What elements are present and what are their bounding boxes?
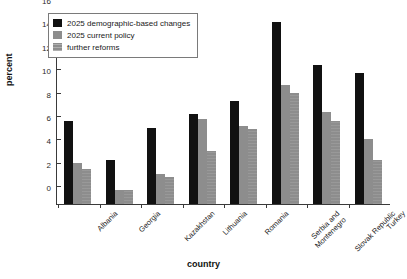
y-axis-tick-mark [57, 93, 61, 94]
chart-legend: 2025 demographic-based changes2025 curre… [48, 13, 198, 58]
bar [272, 22, 281, 204]
bar [355, 73, 364, 204]
y-axis-tick-label: 8 [47, 91, 57, 100]
y-axis-tick-label: 0 [47, 184, 57, 193]
x-axis-tick-mark [183, 204, 184, 208]
y-axis-tick-mark [57, 69, 61, 70]
bar [373, 160, 382, 204]
y-axis-tick-label: 2 [47, 161, 57, 170]
bar [331, 121, 340, 204]
legend-item: 2025 current policy [53, 29, 190, 41]
bar-chart: percent country 0246810121416 AlbaniaGeo… [0, 0, 407, 279]
x-axis-tick-mark [349, 204, 350, 208]
bar [106, 160, 115, 204]
legend-item: 2025 demographic-based changes [53, 17, 190, 29]
bar [82, 169, 91, 204]
y-axis-tick: 8 [47, 84, 57, 102]
bar [165, 177, 174, 204]
bar [198, 119, 207, 204]
gray-square-icon [53, 31, 62, 39]
legend-item-label: 2025 current policy [67, 31, 135, 40]
x-axis-title: country [0, 259, 407, 269]
bar-group [272, 17, 299, 204]
x-axis-category-label: Lithuania [221, 209, 249, 237]
y-axis-title: percent [4, 53, 14, 86]
bar [290, 93, 299, 204]
bar-group [230, 17, 257, 204]
y-axis-tick-mark [57, 163, 61, 164]
x-axis-tick-mark [141, 204, 142, 208]
bar [313, 65, 322, 204]
bar-group [313, 17, 340, 204]
bar [322, 112, 331, 204]
y-axis-tick: 2 [47, 154, 57, 172]
y-axis-tick-label: 10 [42, 67, 57, 76]
x-axis-tick-mark [100, 204, 101, 208]
bar [156, 174, 165, 204]
y-axis-tick: 16 [42, 0, 57, 8]
y-axis-tick: 10 [42, 60, 57, 78]
x-axis-category-label: Serbia and Montenegro [307, 209, 348, 250]
y-axis-tick-label: 6 [47, 114, 57, 123]
legend-item-label: further reforms [67, 43, 119, 52]
y-axis-tick-label: 16 [42, 0, 57, 6]
gray-hatched-square-icon [53, 43, 62, 51]
black-square-icon [53, 19, 62, 27]
x-axis-category-label: Albania [95, 209, 119, 233]
y-axis-tick: 0 [47, 177, 57, 195]
bar [364, 139, 373, 204]
y-axis-tick: 6 [47, 107, 57, 125]
x-axis-category-label: Georgia [137, 209, 162, 234]
x-axis-tick-mark [58, 204, 59, 208]
y-axis-tick-mark [57, 186, 61, 187]
bar [73, 163, 82, 204]
legend-item-label: 2025 demographic-based changes [67, 19, 190, 28]
x-axis-category-label: Kazakhstan [182, 209, 216, 243]
bar [147, 128, 156, 204]
bar [230, 101, 239, 204]
bar [115, 190, 124, 204]
x-axis-tick-mark [266, 204, 267, 208]
y-axis-tick: 4 [47, 130, 57, 148]
y-axis-tick-label: 4 [47, 137, 57, 146]
x-axis-line [56, 204, 390, 205]
bar-group [355, 17, 382, 204]
bar [189, 114, 198, 204]
legend-item: further reforms [53, 41, 190, 53]
y-axis-tick-mark [57, 116, 61, 117]
bar [124, 190, 133, 204]
bar [64, 121, 73, 204]
x-axis-tick-mark [224, 204, 225, 208]
bar [239, 126, 248, 204]
bar [207, 151, 216, 204]
x-axis-category-label: Romania [263, 209, 291, 237]
x-axis-tick-mark [307, 204, 308, 208]
bar [281, 85, 290, 204]
y-axis-tick-mark [57, 139, 61, 140]
bar [248, 129, 257, 204]
